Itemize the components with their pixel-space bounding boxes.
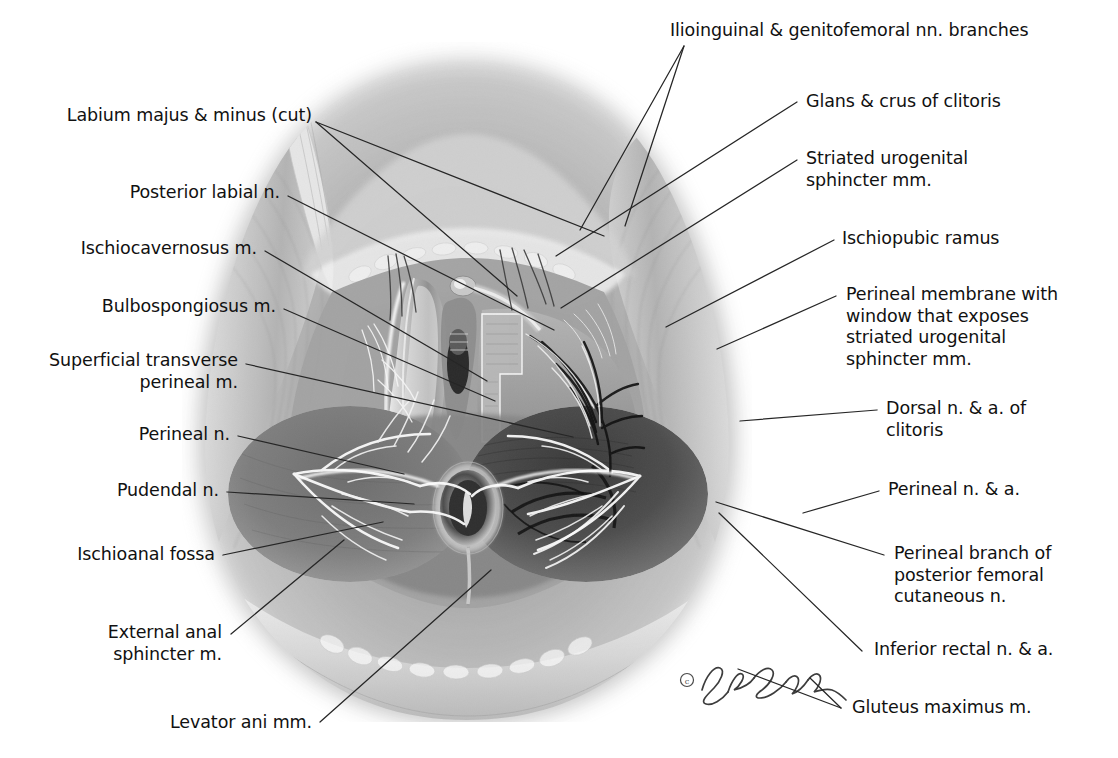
label-ischioanal-fossa: Ischioanal fossa <box>14 544 215 566</box>
label-glans-crus-clitoris: Glans & crus of clitoris <box>806 91 1106 113</box>
label-striated-urogenital-sphincter-mm: Striated urogenital sphincter mm. <box>806 148 1106 191</box>
label-superficial-transverse-perineal-m: Superficial transverse perineal m. <box>14 350 238 393</box>
label-perineal-n: Perineal n. <box>24 424 230 446</box>
label-ilioinguinal-genitofemoral-nn: Ilioinguinal & genitofemoral nn. branche… <box>670 20 1110 42</box>
label-gluteus-maximus-m: Gluteus maximus m. <box>852 697 1112 719</box>
anatomical-illustration <box>182 42 752 722</box>
label-ischiocavernosus-m: Ischiocavernosus m. <box>14 238 257 260</box>
label-perineal-branch-posterior-femoral-cutaneous-n: Perineal branch of posterior femoral cut… <box>894 543 1116 608</box>
label-perineal-membrane-window: Perineal membrane with window that expos… <box>846 284 1114 370</box>
label-dorsal-n-a-clitoris: Dorsal n. & a. of clitoris <box>886 398 1114 441</box>
label-levator-ani-mm: Levator ani mm. <box>24 712 312 734</box>
label-pudendal-n: Pudendal n. <box>24 480 219 502</box>
artist-signature: c <box>676 656 856 712</box>
label-perineal-n-a: Perineal n. & a. <box>888 479 1114 501</box>
label-external-anal-sphincter-m: External anal sphincter m. <box>24 622 222 665</box>
label-posterior-labial-n: Posterior labial n. <box>24 182 280 204</box>
label-bulbospongiosus-m: Bulbospongiosus m. <box>14 296 276 318</box>
label-ischiopubic-ramus: Ischiopubic ramus <box>842 228 1112 250</box>
svg-text:c: c <box>685 677 690 686</box>
figure-canvas: c <box>0 0 1118 758</box>
label-inferior-rectal-n-a: Inferior rectal n. & a. <box>874 639 1114 661</box>
label-labium-majus-minus: Labium majus & minus (cut) <box>24 105 312 127</box>
